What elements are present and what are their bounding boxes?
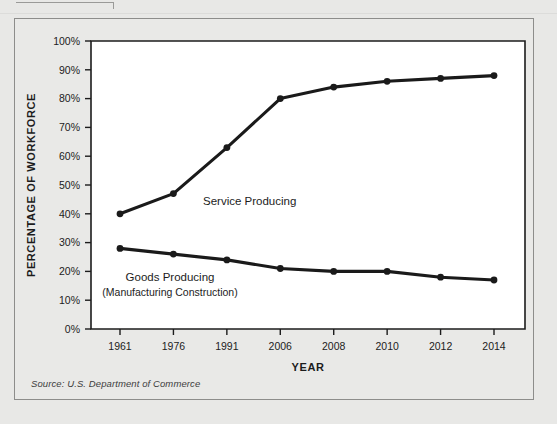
data-point — [224, 144, 231, 151]
data-point — [224, 257, 231, 264]
data-point — [384, 78, 391, 85]
scan-artifact-rule — [16, 2, 114, 3]
y-tick-label: 30% — [59, 236, 80, 248]
x-tick-label: 1976 — [162, 340, 186, 352]
data-point — [117, 245, 124, 252]
y-tick-label: 60% — [59, 150, 80, 162]
series-label-goods: Goods Producing — [126, 271, 215, 283]
x-axis: 19611976199120062008201020122014 — [108, 329, 506, 352]
data-point — [491, 277, 498, 284]
data-point — [330, 84, 337, 91]
data-point — [384, 268, 391, 275]
y-tick-label: 70% — [59, 121, 80, 133]
y-axis-title: PERCENTAGE OF WORKFORCE — [25, 93, 37, 277]
series-sublabel-goods: (Manufacturing Construction) — [102, 286, 237, 298]
y-tick-label: 0% — [65, 323, 80, 335]
line-chart: 0%10%20%30%40%50%60%70%80%90%100% 196119… — [15, 19, 535, 401]
data-point — [170, 251, 177, 258]
y-tick-label: 100% — [53, 35, 80, 47]
data-point — [117, 210, 124, 217]
x-tick-label: 1961 — [108, 340, 132, 352]
x-tick-label: 2008 — [322, 340, 346, 352]
x-axis-title: YEAR — [292, 361, 325, 373]
y-tick-label: 20% — [59, 265, 80, 277]
y-tick-label: 90% — [59, 64, 80, 76]
x-tick-label: 2014 — [482, 340, 506, 352]
y-axis: 0%10%20%30%40%50%60%70%80%90%100% — [53, 35, 91, 335]
x-tick-label: 2012 — [429, 340, 453, 352]
data-point — [437, 274, 444, 281]
data-point — [170, 190, 177, 197]
data-point — [491, 72, 498, 79]
data-point — [277, 265, 284, 272]
series-label-service: Service Producing — [203, 195, 296, 207]
data-point — [277, 95, 284, 102]
x-tick-label: 2006 — [269, 340, 293, 352]
y-tick-label: 10% — [59, 294, 80, 306]
x-tick-label: 1991 — [215, 340, 239, 352]
x-tick-label: 2010 — [375, 340, 399, 352]
data-point — [437, 75, 444, 82]
scan-artifact-tick — [113, 2, 114, 9]
y-tick-label: 40% — [59, 208, 80, 220]
y-tick-label: 80% — [59, 92, 80, 104]
figure-container: 0%10%20%30%40%50%60%70%80%90%100% 196119… — [14, 18, 534, 400]
scan-artifact-row — [0, 13, 557, 14]
data-point — [330, 268, 337, 275]
y-tick-label: 50% — [59, 179, 80, 191]
source-note: Source: U.S. Department of Commerce — [31, 378, 200, 389]
